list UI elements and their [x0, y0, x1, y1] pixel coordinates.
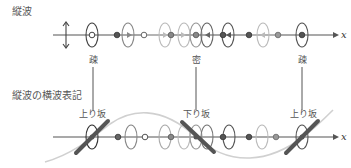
label-compression: 密: [192, 54, 201, 65]
bottom-axis-arrowhead-icon: [333, 134, 339, 140]
top-axis-label: x: [341, 29, 347, 40]
left-arrow-icon: [205, 32, 210, 38]
left-arrow-icon: [226, 32, 231, 38]
particle-dot: [273, 134, 279, 140]
label-upslope: 上り坂: [79, 109, 106, 119]
top-wave-row: x: [53, 22, 347, 48]
particle-dot: [168, 32, 174, 38]
particle-dot: [115, 134, 121, 140]
bottom-axis-label: x: [341, 131, 347, 142]
particle-dot: [275, 32, 281, 38]
particle-dot: [220, 32, 226, 38]
right-arrow-icon: [127, 32, 132, 38]
right-arrow-icon: [163, 32, 168, 38]
particle-dot: [89, 32, 95, 38]
longitudinal-wave-diagram: 縦波 x: [0, 0, 351, 168]
particle-dot: [142, 134, 148, 140]
label-rarefaction: 疎: [89, 55, 98, 65]
particle-dot: [299, 32, 305, 38]
particle-dot: [246, 134, 252, 140]
particle-dot: [246, 32, 252, 38]
particle-dot: [193, 32, 199, 38]
label-downslope: 下り坂: [183, 109, 210, 119]
particle-dot: [141, 32, 147, 38]
particle-dot: [168, 134, 174, 140]
title-longitudinal-wave: 縦波: [12, 5, 32, 17]
label-rarefaction: 疎: [298, 55, 307, 65]
particle-dot: [220, 134, 226, 140]
particle-dot: [114, 32, 120, 38]
title-transverse-representation: 縦波の横波表記: [12, 89, 82, 101]
top-axis-arrowhead-icon: [333, 32, 339, 38]
left-arrow-icon: [260, 32, 265, 38]
right-arrow-icon: [181, 32, 186, 38]
label-upslope: 上り坂: [290, 109, 317, 119]
